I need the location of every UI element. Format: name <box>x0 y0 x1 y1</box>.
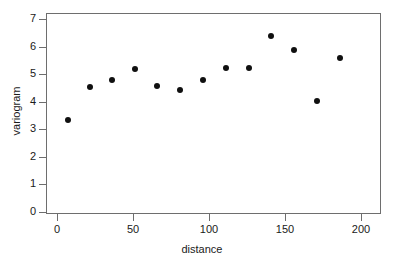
x-axis-tick-label: 150 <box>265 224 305 235</box>
y-axis-tick-label: 1 <box>10 178 36 189</box>
y-axis-tick <box>39 19 46 20</box>
x-axis-tick <box>285 214 286 221</box>
x-axis-tick <box>133 214 134 221</box>
y-axis-tick-label-wrap: 0 <box>8 206 36 217</box>
y-axis-tick <box>39 102 46 103</box>
x-axis-tick-label: 0 <box>37 224 77 235</box>
x-axis-tick <box>57 214 58 221</box>
y-axis-tick-label: 6 <box>10 41 36 52</box>
y-axis-tick <box>39 129 46 130</box>
x-axis-tick <box>209 214 210 221</box>
y-axis-tick-label-wrap: 7 <box>8 13 36 24</box>
y-axis-tick <box>39 184 46 185</box>
y-axis-tick-label: 7 <box>10 13 36 24</box>
y-axis-tick <box>39 157 46 158</box>
y-axis-tick <box>39 74 46 75</box>
x-axis-tick <box>361 214 362 221</box>
y-axis-tick-label: 0 <box>10 206 36 217</box>
y-axis-tick <box>39 212 46 213</box>
y-axis-title: variogram <box>10 63 22 159</box>
x-axis-tick-label: 50 <box>113 224 153 235</box>
variogram-scatter-figure: 01234567 050100150200 distance variogram <box>0 0 404 268</box>
y-axis-tick <box>39 47 46 48</box>
x-axis-tick-label: 200 <box>341 224 381 235</box>
x-axis-tick-label: 100 <box>189 224 229 235</box>
plot-frame <box>46 13 381 214</box>
x-axis-title: distance <box>0 243 404 255</box>
y-axis-tick-label-wrap: 1 <box>8 178 36 189</box>
y-axis-tick-label-wrap: 6 <box>8 41 36 52</box>
